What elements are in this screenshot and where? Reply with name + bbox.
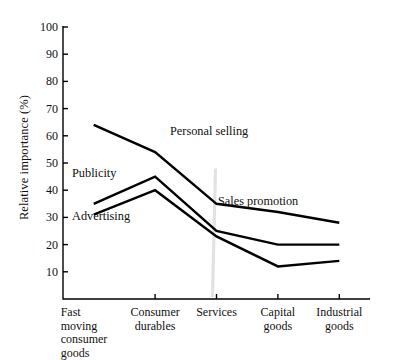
series-annotation-2: Advertising: [72, 210, 130, 222]
y-tick-label-60: 60: [30, 130, 58, 142]
x-category-line: goods: [61, 347, 151, 360]
series-annotation-1: Publicity: [72, 167, 116, 179]
x-category-label-4: Industrialgoods: [294, 306, 384, 333]
y-tick-label-70: 70: [30, 103, 58, 115]
y-tick-label-50: 50: [30, 157, 58, 169]
series-line-2: [94, 190, 340, 266]
series-annotation-3: Sales promotion: [218, 195, 298, 207]
x-category-line: consumer: [61, 333, 151, 347]
y-tick-label-90: 90: [30, 48, 58, 60]
y-tick-label-20: 20: [30, 239, 58, 251]
y-tick-label-30: 30: [30, 211, 58, 223]
y-axis-ticks: [63, 27, 68, 272]
axis-lines: [63, 26, 370, 299]
y-tick-label-10: 10: [30, 266, 58, 278]
y-tick-label-100: 100: [30, 21, 58, 33]
x-category-line: durables: [110, 320, 200, 334]
series-annotation-0: Personal selling: [170, 125, 248, 137]
y-tick-label-80: 80: [30, 75, 58, 87]
x-category-line: goods: [294, 320, 384, 334]
y-tick-label-40: 40: [30, 184, 58, 196]
x-category-line: Industrial: [294, 306, 384, 320]
data-series-lines: [94, 125, 340, 267]
x-axis-ticks: [155, 294, 339, 299]
